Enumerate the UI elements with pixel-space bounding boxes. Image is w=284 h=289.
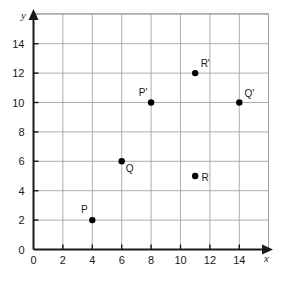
y-tick-label: 10 [12,97,24,109]
data-point-label-r-prime: R' [201,58,210,69]
data-point-label-q: Q [126,163,134,174]
x-tick-label: 10 [174,254,186,266]
axis-ticks [34,44,240,250]
y-tick-label: 14 [12,38,24,50]
axis-names: xy [20,9,269,264]
data-point-q [119,158,125,164]
x-tick-label: 0 [30,254,36,266]
data-point-p-prime [148,99,154,105]
y-tick-label: 4 [18,185,24,197]
x-tick-label: 14 [233,254,245,266]
data-point-r-prime [192,70,198,76]
y-tick-label: 0 [18,244,24,256]
y-tick-label: 6 [18,155,24,167]
axis-tick-labels: 0246810121402468101214 [12,38,245,266]
data-point-label-q-prime: Q' [244,88,254,99]
data-point-r [192,173,198,179]
y-axis-label: y [20,9,26,21]
x-tick-label: 6 [119,254,125,266]
data-point-label-p-prime: P' [139,87,148,98]
y-tick-label: 12 [12,67,24,79]
coordinate-plot-svg: 0246810121402468101214 xy PQRP'Q'R' [0,0,284,289]
data-point-label-p: P [81,204,88,215]
x-tick-label: 4 [89,254,95,266]
data-point-q-prime [236,99,242,105]
x-tick-label: 12 [204,254,216,266]
data-point-p [89,217,95,223]
x-axis-label: x [263,252,269,264]
data-point-label-r: R [202,172,209,183]
coordinate-plane-figure: 0246810121402468101214 xy PQRP'Q'R' [0,0,284,289]
y-tick-label: 2 [18,214,24,226]
x-tick-label: 2 [60,254,66,266]
x-tick-label: 8 [148,254,154,266]
data-points: PQRP'Q'R' [81,58,254,223]
y-tick-label: 8 [18,126,24,138]
